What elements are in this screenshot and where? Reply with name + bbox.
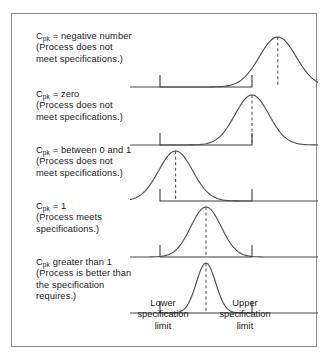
upper-spec-limit-line3: limit (207, 321, 283, 332)
cpk-label-rest: = between 0 and 1 (50, 145, 131, 155)
cpk-symbol-subscript: pk (43, 93, 50, 100)
cpk-symbol-base: C (36, 145, 43, 155)
spec-limit-bracket (160, 75, 252, 87)
cpk-symbol-base: C (36, 89, 43, 99)
cpk-distribution-plot-cpk-between-0-and-1 (130, 145, 318, 205)
cpk-symbol-subscript: pk (43, 35, 50, 42)
cpk-distribution-plot-cpk-zero (130, 89, 318, 149)
lower-spec-limit-line3: limit (125, 321, 201, 332)
cpk-symbol-subscript: pk (43, 149, 50, 156)
normal-distribution-curve (130, 95, 318, 145)
cpk-symbol: Cpk (36, 89, 50, 99)
cpk-symbol: Cpk (36, 201, 50, 211)
cpk-distribution-plot-cpk-equals-1 (130, 201, 318, 261)
cpk-symbol: Cpk (36, 145, 50, 155)
lower-spec-limit-line1: Lower (125, 298, 201, 309)
cpk-symbol: Cpk (36, 257, 50, 267)
normal-distribution-curve (130, 151, 318, 201)
cpk-symbol-base: C (36, 31, 43, 41)
upper-spec-limit-line2: specification (207, 309, 283, 320)
spec-limit-labels: Lower specification limit Upper specific… (12, 298, 316, 342)
upper-spec-limit-line1: Upper (207, 298, 283, 309)
cpk-distribution-plot-cpk-negative (130, 31, 318, 91)
cpk-label-rest: greater than 1 (50, 257, 112, 267)
cpk-row-list: Cpk = negative number(Process does notme… (12, 14, 316, 346)
lower-spec-limit-label: Lower specification limit (125, 298, 201, 332)
normal-distribution-curve (130, 37, 318, 87)
upper-spec-limit-label: Upper specification limit (207, 298, 283, 332)
cpk-symbol-subscript: pk (43, 261, 50, 268)
cpk-symbol: Cpk (36, 31, 50, 41)
cpk-symbol-subscript: pk (43, 205, 50, 212)
cpk-label-rest: = zero (50, 89, 79, 99)
lower-spec-limit-line2: specification (125, 309, 201, 320)
cpk-label-rest: = 1 (50, 201, 66, 211)
normal-distribution-curve (130, 207, 318, 257)
cpk-label-rest: = negative number (50, 31, 132, 41)
cpk-symbol-base: C (36, 257, 43, 267)
cpk-symbol-base: C (36, 201, 43, 211)
cpk-figure-frame: Cpk = negative number(Process does notme… (11, 13, 317, 347)
